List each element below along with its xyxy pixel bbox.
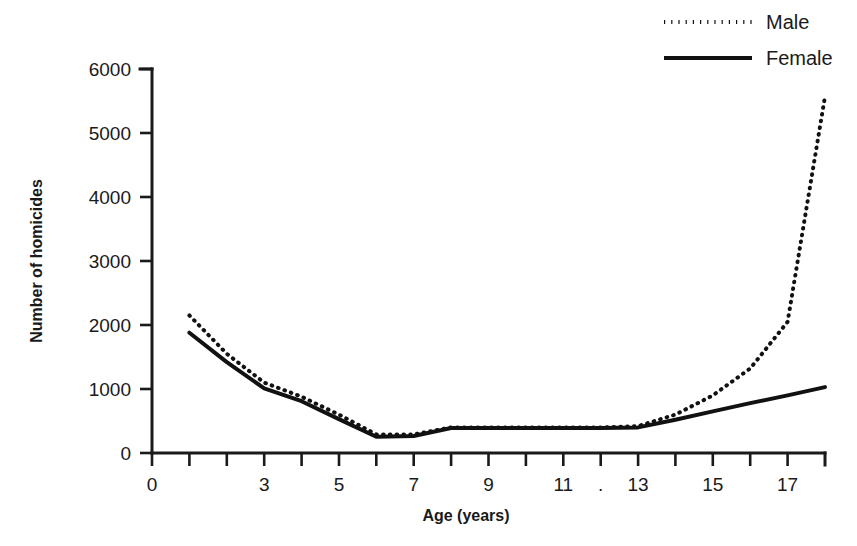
y-tick-label-6000: 6000 <box>89 59 131 80</box>
y-tick-label-5000: 5000 <box>89 123 131 144</box>
x-tick-label-9: 9 <box>483 474 494 495</box>
axis-lines <box>140 69 825 465</box>
x-tick-label-stray-period: . <box>598 474 603 495</box>
series-line-female <box>189 333 825 437</box>
series-lines <box>189 97 825 437</box>
axis-titles: Age (years) Number of homicides <box>28 179 510 524</box>
x-tick-label-17: 17 <box>777 474 798 495</box>
y-axis-title: Number of homicides <box>28 179 45 343</box>
homicides-by-age-chart: 6000 5000 4000 3000 2000 1000 0 <box>0 0 857 546</box>
x-tick-label-5: 5 <box>334 474 345 495</box>
series-line-male <box>189 97 825 435</box>
y-tick-marks <box>140 69 152 453</box>
x-tick-labels: 0 3 5 7 9 11 . 13 15 17 <box>147 474 798 495</box>
y-tick-labels: 6000 5000 4000 3000 2000 1000 0 <box>89 59 131 464</box>
x-axis-title: Age (years) <box>422 507 509 524</box>
chart-svg: 6000 5000 4000 3000 2000 1000 0 <box>0 0 857 546</box>
x-tick-marks <box>152 453 788 466</box>
plot-area: 6000 5000 4000 3000 2000 1000 0 <box>89 59 825 495</box>
legend-label-female: Female <box>766 47 833 69</box>
legend-label-male: Male <box>766 11 809 33</box>
x-tick-label-0: 0 <box>147 474 158 495</box>
x-tick-label-13: 13 <box>628 474 649 495</box>
x-tick-label-7: 7 <box>408 474 419 495</box>
x-tick-label-15: 15 <box>702 474 723 495</box>
y-tick-label-1000: 1000 <box>89 379 131 400</box>
y-tick-label-4000: 4000 <box>89 187 131 208</box>
y-tick-label-2000: 2000 <box>89 315 131 336</box>
y-tick-label-3000: 3000 <box>89 251 131 272</box>
x-tick-label-3: 3 <box>259 474 270 495</box>
x-tick-label-11: 11 <box>553 474 573 495</box>
legend: Male Female <box>664 11 833 69</box>
y-tick-label-0: 0 <box>120 443 131 464</box>
